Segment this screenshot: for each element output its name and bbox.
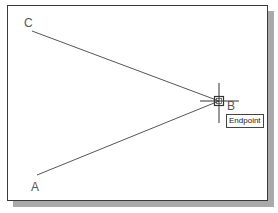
screenshot-stage: C A B Endpoint <box>0 0 278 213</box>
osnap-endpoint-tooltip: Endpoint <box>226 114 264 128</box>
point-label-a: A <box>31 181 39 193</box>
line-c-to-b[interactable] <box>32 31 219 101</box>
line-a-to-b[interactable] <box>37 101 219 175</box>
point-label-c: C <box>24 17 33 29</box>
drawing-svg <box>0 0 278 213</box>
point-label-b: B <box>227 100 235 112</box>
